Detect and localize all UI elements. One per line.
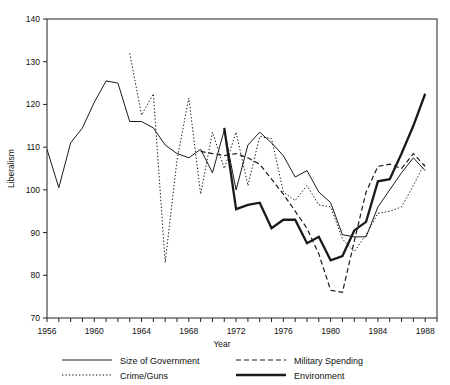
y-tick-label: 110 xyxy=(26,142,40,152)
series-line-military-spending xyxy=(201,151,426,292)
x-tick-label: 1984 xyxy=(368,326,387,336)
legend-label-environment: Environment xyxy=(294,371,345,381)
y-tick-label: 140 xyxy=(26,14,40,24)
y-tick-label: 100 xyxy=(26,185,40,195)
x-axis-ticks: 195619601964196819721976198019841988 xyxy=(38,318,437,336)
series-line-crime-guns xyxy=(130,53,425,262)
x-tick-label: 1980 xyxy=(321,326,340,336)
y-axis-ticks: 708090100110120130140 xyxy=(26,14,47,323)
series-lines xyxy=(47,53,425,292)
x-tick-label: 1988 xyxy=(416,326,435,336)
x-axis-title: Year xyxy=(213,339,230,349)
x-tick-label: 1968 xyxy=(179,326,198,336)
x-tick-label: 1964 xyxy=(132,326,151,336)
y-tick-label: 90 xyxy=(31,228,41,238)
chart-canvas: 708090100110120130140 195619601964196819… xyxy=(0,0,450,385)
y-tick-label: 130 xyxy=(26,57,40,67)
legend-label-military-spending: Military Spending xyxy=(294,356,363,366)
y-tick-label: 80 xyxy=(31,270,41,280)
x-tick-label: 1960 xyxy=(85,326,104,336)
x-tick-label: 1972 xyxy=(227,326,246,336)
y-tick-label: 120 xyxy=(26,99,40,109)
legend-label-size-of-government: Size of Government xyxy=(120,356,200,366)
y-axis-title: Liberalism xyxy=(6,149,16,188)
x-tick-label: 1956 xyxy=(38,326,57,336)
series-line-environment xyxy=(224,94,425,261)
chart-legend: Size of GovernmentMilitary SpendingCrime… xyxy=(62,356,363,381)
y-tick-label: 70 xyxy=(31,313,41,323)
liberalism-by-policy-domain-chart: 708090100110120130140 195619601964196819… xyxy=(0,0,450,385)
x-tick-label: 1976 xyxy=(274,326,293,336)
legend-label-crime-guns: Crime/Guns xyxy=(120,371,169,381)
